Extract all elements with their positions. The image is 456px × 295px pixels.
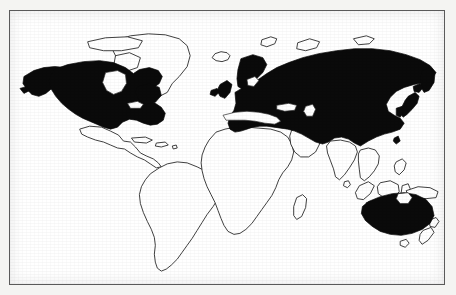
region-lesser-antilles [172,145,177,149]
region-canadian-arctic [88,37,143,51]
region-taiwan-filled [393,136,400,144]
region-arctic-islands [353,36,374,45]
region-svalbard [261,37,277,47]
region-sumatra [355,182,374,200]
sea-black-sea [277,103,297,111]
region-southeast-asia [358,148,379,181]
region-hispaniola [155,142,168,147]
region-iceland [212,52,230,62]
region-tasmania [400,239,409,247]
region-india [327,140,358,180]
region-novaya-zemlya [297,39,320,51]
figure-container [0,0,456,295]
world-map [10,11,444,284]
region-africa [201,127,294,234]
region-united-kingdom-filled [217,80,232,98]
region-philippines [394,159,406,175]
region-mexico-central-america [80,126,162,168]
region-madagascar [294,195,307,220]
map-frame [9,10,445,285]
region-ireland-filled [210,88,219,96]
region-cuba [131,137,152,143]
region-sri-lanka [343,181,350,188]
